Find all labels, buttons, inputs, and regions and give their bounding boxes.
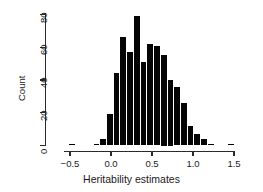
- y-axis-title: Count: [16, 76, 27, 101]
- x-tick-label: 0.5: [132, 158, 172, 169]
- x-tick-label: 0.0: [91, 158, 131, 169]
- histogram-bar: [187, 126, 194, 146]
- histogram-bar: [126, 52, 133, 145]
- x-tick-0.5: [151, 151, 152, 156]
- histogram-bar: [200, 139, 207, 146]
- x-tick-label: −0.5: [50, 158, 90, 169]
- histogram-bar: [93, 144, 100, 146]
- y-tick-label: 60: [38, 45, 49, 56]
- histogram-bar: [180, 103, 187, 146]
- histogram-bar: [106, 114, 113, 145]
- x-tick-label: 1.0: [173, 158, 213, 169]
- histogram-bar: [167, 80, 174, 146]
- histogram-bar: [68, 144, 75, 146]
- histogram-bar: [113, 73, 120, 145]
- histogram-bar: [207, 144, 214, 146]
- histogram-plot: 020406080 −0.50.00.51.01.5 Count Heritab…: [0, 0, 263, 192]
- histogram-bar: [99, 139, 106, 146]
- x-axis-line: [64, 151, 235, 152]
- histogram-bar: [140, 62, 147, 146]
- histogram-bar: [146, 44, 153, 146]
- x-axis-title: Heritability estimates: [0, 173, 263, 185]
- y-tick-label: 80: [38, 12, 49, 23]
- histogram-bar: [153, 46, 160, 146]
- y-tick-label: 20: [38, 110, 49, 121]
- y-tick-label: 40: [38, 77, 49, 88]
- y-tick-label: 0: [38, 148, 49, 153]
- histogram-bar: [227, 144, 234, 146]
- x-tick-1.0: [192, 151, 193, 156]
- y-tick-0: [40, 145, 45, 146]
- histogram-bar: [193, 134, 200, 145]
- x-tick-0.0: [110, 151, 111, 156]
- x-tick-−0.5: [69, 151, 70, 156]
- x-tick-1.5: [233, 151, 234, 156]
- histogram-bar: [133, 16, 140, 145]
- histogram-bar: [119, 37, 126, 145]
- histogram-bar: [173, 87, 180, 146]
- histogram-bar: [160, 55, 167, 145]
- x-tick-label: 1.5: [214, 158, 254, 169]
